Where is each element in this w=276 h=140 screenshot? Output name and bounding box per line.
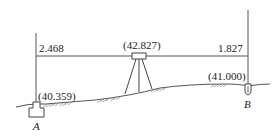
point-b-label: B [244, 99, 251, 110]
point-a-label: A [33, 121, 40, 132]
level-instrument-icon [132, 53, 146, 59]
point-b-elevation: (41.000) [208, 71, 246, 82]
instrument-elevation: (42.827) [123, 40, 161, 51]
leveling-diagram: 2.468 (42.827) 1.827 (40.359) (41.000) A… [0, 0, 276, 140]
point-a-elevation: (40.359) [38, 91, 76, 102]
backsight-reading: 2.468 [39, 43, 64, 54]
tripod-icon [125, 59, 152, 94]
foresight-reading: 1.827 [218, 43, 243, 54]
